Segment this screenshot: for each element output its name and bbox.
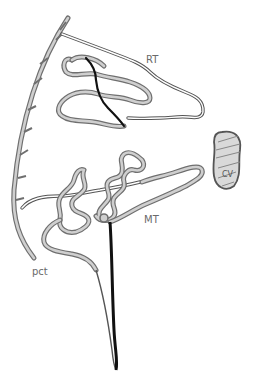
label-mt: MT: [144, 214, 159, 225]
label-cv: CV: [222, 170, 233, 179]
loop-of-henle: [96, 222, 117, 370]
central-vein: [213, 132, 240, 189]
mt-tubule: [44, 153, 203, 270]
nephron-diagram: [0, 0, 256, 384]
label-rt: RT: [146, 54, 158, 65]
label-pct: pct: [32, 266, 48, 277]
rt-tubule: [59, 57, 150, 126]
